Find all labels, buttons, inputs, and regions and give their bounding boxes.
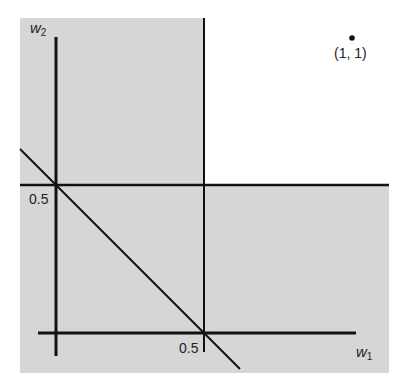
y-axis-label: w2: [30, 20, 46, 38]
x-tick-label-half: 0.5: [179, 341, 198, 355]
point-1-1: [349, 35, 355, 41]
point-label: (1, 1): [334, 46, 367, 60]
x-axis-label: w1: [356, 344, 372, 362]
y-tick-label-half: 0.5: [29, 192, 48, 206]
